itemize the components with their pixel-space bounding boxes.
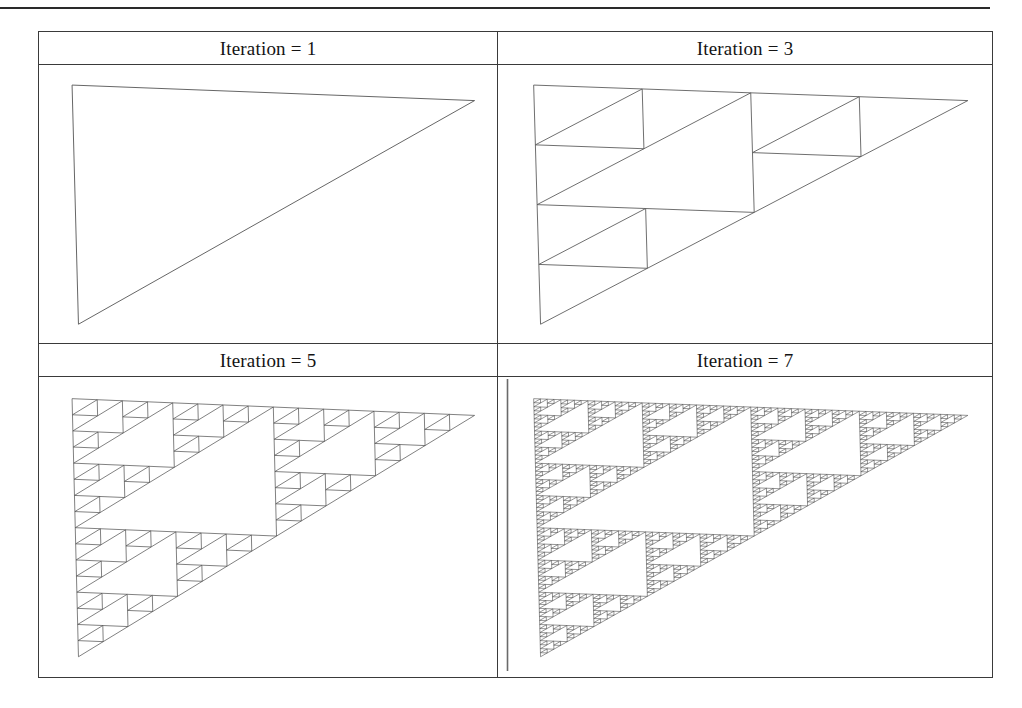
fractal-svg [498, 377, 992, 677]
horizontal-rule [0, 7, 990, 9]
fractal-paths [508, 379, 968, 671]
figure-cell-iteration-5: Iteration = 5 [39, 344, 498, 677]
fractal-canvas-iteration-1 [39, 65, 497, 343]
triangle-outline [72, 85, 475, 324]
page-left-margin [0, 0, 3, 708]
figure-cell-iteration-1: Iteration = 1 [39, 32, 498, 344]
fractal-svg [498, 65, 992, 343]
fractal-paths [534, 85, 968, 324]
caption-iteration-7: Iteration = 7 [498, 344, 992, 377]
fractal-canvas-iteration-5 [39, 377, 497, 677]
caption-iteration-3: Iteration = 3 [498, 32, 992, 65]
caption-iteration-1: Iteration = 1 [39, 32, 497, 65]
triangle-outline [534, 85, 968, 324]
figure-cell-iteration-7: Iteration = 7 [498, 344, 992, 677]
fractal-canvas-iteration-3 [498, 65, 992, 343]
figure-table: Iteration = 1 Iteration = 3 Iteration = … [38, 31, 993, 678]
fractal-canvas-iteration-7 [498, 377, 992, 677]
fractal-svg [39, 377, 497, 677]
fractal-paths [72, 85, 475, 324]
triangle-outline [72, 399, 475, 657]
caption-iteration-5: Iteration = 5 [39, 344, 497, 377]
figure-cell-iteration-3: Iteration = 3 [498, 32, 992, 344]
fractal-svg [39, 65, 497, 343]
fractal-paths [72, 399, 475, 657]
triangle-outline [534, 399, 968, 657]
